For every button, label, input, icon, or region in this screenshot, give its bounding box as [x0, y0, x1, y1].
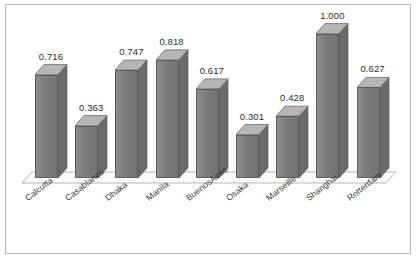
- bar-marseille[interactable]: [276, 0, 308, 261]
- bar-front-face: [236, 135, 259, 178]
- plot-area: 0.7160.3630.7470.8180.6170.3010.4281.000…: [0, 0, 418, 261]
- bar-value-label: 0.428: [268, 92, 316, 103]
- bar-chart: 0.7160.3630.7470.8180.6170.3010.4281.000…: [0, 0, 418, 261]
- bar-value-label: 0.747: [107, 46, 155, 57]
- bar-rotterdam[interactable]: [357, 0, 389, 261]
- bar-shanghai[interactable]: [316, 0, 348, 261]
- bar-3d-faces: [236, 0, 270, 261]
- bar-front-face: [156, 60, 179, 178]
- bar-osaka[interactable]: [236, 0, 268, 261]
- bar-front-face: [276, 116, 299, 178]
- bar-front-face: [35, 75, 58, 178]
- bar-front-face: [115, 70, 138, 178]
- bar-value-label: 1.000: [308, 10, 356, 21]
- bar-dhaka[interactable]: [115, 0, 147, 261]
- bar-front-face: [357, 87, 380, 178]
- bar-buenosaires[interactable]: [196, 0, 228, 261]
- bar-value-label: 0.363: [67, 102, 115, 113]
- bar-front-face: [196, 89, 219, 178]
- bar-value-label: 0.627: [349, 63, 397, 74]
- bar-value-label: 0.716: [27, 51, 75, 62]
- bar-value-label: 0.617: [188, 65, 236, 76]
- bar-value-label: 0.818: [148, 36, 196, 47]
- bar-front-face: [316, 34, 339, 178]
- bar-calcutta[interactable]: [35, 0, 67, 261]
- bar-casablanca[interactable]: [75, 0, 107, 261]
- bar-value-label: 0.301: [228, 111, 276, 122]
